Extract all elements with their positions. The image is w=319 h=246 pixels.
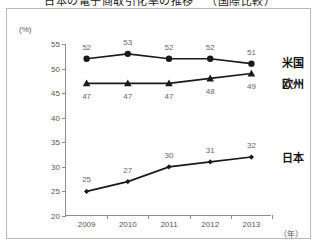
data-point-marker	[207, 56, 213, 62]
y-axis-tick	[62, 167, 66, 168]
data-value-label: 32	[247, 141, 256, 150]
data-value-label: 25	[82, 175, 91, 184]
data-point-marker	[83, 56, 89, 62]
series-legend-label-日本: 日本	[282, 149, 304, 165]
x-axis-tick	[190, 215, 191, 219]
y-axis-tick-label: 30	[51, 162, 60, 171]
y-axis-tick-label: 35	[51, 138, 60, 147]
x-axis-tick-label: 2012	[201, 220, 219, 229]
data-point-marker	[208, 159, 213, 164]
chart-frame: (%) 202530354045505520092010201120122013…	[6, 8, 311, 239]
y-axis-tick	[62, 93, 66, 94]
y-axis-tick-label: 20	[51, 212, 60, 221]
x-axis-tick	[107, 215, 108, 219]
x-axis-tick-label: 2013	[242, 220, 260, 229]
y-axis-tick	[62, 142, 66, 143]
series-legend-label-米国: 米国	[282, 54, 304, 70]
data-value-label: 27	[123, 165, 132, 174]
y-axis-tick-label: 25	[51, 187, 60, 196]
data-value-label: 47	[82, 92, 91, 101]
plot-area: 2025303540455055200920102011201220135253…	[65, 44, 271, 216]
series-legend-label-欧州: 欧州	[282, 75, 304, 91]
y-axis-tick	[62, 118, 66, 119]
x-axis-tick-label: 2009	[78, 220, 96, 229]
data-value-label: 48	[206, 87, 215, 96]
page-title-left: 日本の電子商取引化率の推移	[44, 0, 194, 7]
x-axis-tick	[231, 215, 232, 219]
data-value-label: 47	[165, 92, 174, 101]
data-point-marker	[166, 56, 172, 62]
x-axis-unit-label: （年）	[279, 228, 303, 239]
data-value-label: 53	[123, 37, 132, 46]
y-axis-unit-label: (%)	[19, 25, 31, 34]
y-axis-tick-label: 45	[51, 89, 60, 98]
page-title-right: （国際比較）	[206, 0, 275, 7]
data-point-marker	[248, 60, 254, 66]
series-line-日本	[87, 157, 252, 191]
x-axis-tick-label: 2011	[160, 220, 177, 229]
data-value-label: 52	[82, 42, 91, 51]
cut-off-title-strip: 日本の電子商取引化率の推移 （国際比較）	[0, 0, 319, 7]
data-point-marker	[125, 51, 131, 57]
y-axis-tick-label: 40	[51, 113, 60, 122]
series-svg	[66, 44, 272, 216]
y-axis-tick	[62, 44, 66, 45]
data-value-label: 52	[206, 42, 215, 51]
y-axis-tick	[62, 69, 66, 70]
y-axis-tick-label: 55	[51, 40, 60, 49]
x-axis-tick	[148, 215, 149, 219]
y-axis-tick	[62, 191, 66, 192]
y-axis-tick-label: 50	[51, 64, 60, 73]
x-axis-tick-label: 2010	[119, 220, 137, 229]
data-point-marker	[249, 154, 254, 159]
data-point-marker	[84, 189, 89, 194]
data-value-label: 51	[247, 47, 256, 56]
data-value-label: 49	[247, 82, 256, 91]
x-axis-tick	[272, 215, 273, 219]
data-value-label: 31	[206, 145, 215, 154]
data-point-marker	[125, 179, 130, 184]
data-value-label: 52	[165, 42, 174, 51]
data-point-marker	[166, 164, 171, 169]
data-value-label: 30	[165, 150, 174, 159]
y-axis-tick	[62, 216, 66, 217]
data-value-label: 47	[123, 92, 132, 101]
